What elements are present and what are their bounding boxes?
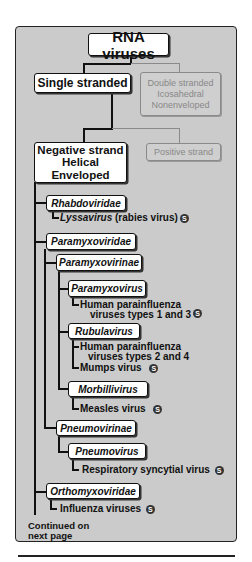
connector bbox=[44, 249, 46, 427]
node-positive-strand: Positive strand bbox=[146, 143, 221, 161]
node-label: Pneumovirinae bbox=[60, 423, 132, 434]
node-label: Rubulavirus bbox=[75, 326, 133, 337]
connector bbox=[83, 128, 113, 130]
node-paramyxovirinae: Paramyxovirinae bbox=[56, 254, 142, 271]
connector bbox=[179, 128, 180, 143]
connector bbox=[34, 182, 36, 515]
node-label: Double stranded bbox=[147, 78, 213, 89]
node-label: Icosahedral bbox=[157, 89, 204, 100]
node-rubulavirus: Rubulavirus bbox=[68, 323, 140, 339]
connector bbox=[72, 346, 79, 348]
node-rna-viruses: RNA viruses bbox=[88, 33, 169, 56]
virus-line: viruses types 1 and 3 bbox=[90, 309, 191, 320]
node-label: Pneumovirus bbox=[75, 446, 138, 457]
connector bbox=[52, 217, 59, 219]
s-icon: S bbox=[215, 466, 224, 475]
connector bbox=[83, 63, 131, 65]
continued-line: next page bbox=[28, 531, 89, 541]
node-label: RNA viruses bbox=[89, 28, 168, 62]
connector bbox=[58, 451, 68, 453]
connector bbox=[112, 128, 180, 129]
connector bbox=[72, 304, 79, 306]
connector bbox=[58, 435, 60, 452]
node-rhabdoviridae: Rhabdoviridae bbox=[46, 195, 126, 211]
virus-hpiv-2-4-line2: viruses types 2 and 4 bbox=[88, 351, 189, 362]
node-morbillivirus: Morbillivirus bbox=[68, 381, 148, 397]
node-label: Nonenveloped bbox=[151, 100, 209, 111]
virus-line: viruses types 2 and 4 bbox=[88, 351, 189, 362]
node-label: Paramyxovirinae bbox=[59, 257, 139, 268]
s-icon: S bbox=[153, 405, 162, 414]
node-label: Paramyxoviridae bbox=[51, 236, 131, 247]
virus-measles: Measles virus S bbox=[80, 403, 162, 414]
node-label: Single stranded bbox=[37, 76, 127, 90]
node-label: Enveloped bbox=[51, 169, 109, 182]
node-label: Rhabdoviridae bbox=[51, 198, 120, 209]
connector bbox=[58, 388, 68, 390]
node-paramyxovirus: Paramyxovirus bbox=[68, 280, 146, 297]
connector bbox=[111, 92, 113, 129]
virus-name: Measles virus bbox=[80, 403, 146, 414]
node-negative-strand: Negative strand Helical Enveloped bbox=[34, 142, 127, 183]
connector bbox=[50, 508, 57, 510]
s-icon: S bbox=[180, 214, 189, 223]
connector bbox=[34, 491, 46, 493]
node-label: Negative strand bbox=[37, 144, 123, 157]
virus-rsv: Respiratory syncytial virus S bbox=[82, 464, 224, 475]
connector bbox=[83, 128, 85, 142]
virus-mumps: Mumps virus S bbox=[80, 362, 158, 373]
node-paramyxoviridae: Paramyxoviridae bbox=[46, 233, 136, 250]
virus-name: Mumps virus bbox=[80, 362, 142, 373]
continued-note: Continued on next page bbox=[28, 521, 89, 540]
connector bbox=[44, 262, 56, 264]
s-icon: S bbox=[193, 309, 202, 318]
connector bbox=[72, 469, 79, 471]
node-label: Paramyxovirus bbox=[71, 283, 143, 294]
node-pneumovirinae: Pneumovirinae bbox=[56, 420, 136, 436]
connector bbox=[44, 427, 56, 429]
connector bbox=[58, 331, 68, 333]
virus-lyssavirus: Lyssavirus (rabies virus)S bbox=[60, 212, 189, 223]
node-label: Positive strand bbox=[154, 147, 213, 157]
node-orthomyxoviridae: Orthomyxoviridae bbox=[46, 483, 140, 499]
genus-suffix: (rabies virus) bbox=[112, 212, 178, 223]
node-double-stranded: Double stranded Icosahedral Nonenveloped bbox=[140, 72, 221, 116]
connector bbox=[34, 202, 46, 204]
virus-influenza: Influenza viruses S bbox=[60, 503, 155, 514]
connector bbox=[72, 367, 79, 369]
virus-name: Influenza viruses bbox=[60, 503, 141, 514]
node-label: Orthomyxoviridae bbox=[50, 486, 136, 497]
virus-name: Respiratory syncytial virus bbox=[82, 464, 210, 475]
virus-hpiv-1-3-line2: viruses types 1 and 3S bbox=[90, 309, 202, 320]
node-label: Helical bbox=[62, 156, 99, 169]
node-pneumovirus: Pneumovirus bbox=[68, 443, 146, 459]
connector bbox=[83, 63, 85, 73]
s-icon: S bbox=[146, 505, 155, 514]
s-icon: S bbox=[149, 364, 158, 373]
connector bbox=[34, 241, 46, 243]
connector bbox=[58, 288, 68, 290]
connector bbox=[131, 63, 180, 64]
divider bbox=[18, 555, 235, 557]
node-single-stranded: Single stranded bbox=[34, 73, 131, 93]
connector bbox=[72, 408, 79, 410]
node-label: Morbillivirus bbox=[78, 384, 137, 395]
genus-name: Lyssavirus bbox=[60, 212, 112, 223]
connector bbox=[72, 338, 74, 368]
